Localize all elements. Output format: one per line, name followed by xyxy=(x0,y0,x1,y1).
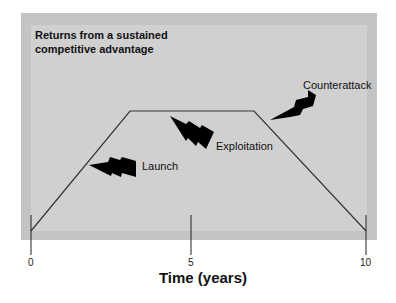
tick-label-5: 5 xyxy=(188,257,194,268)
exploitation-bolt-icon xyxy=(170,116,214,149)
launch-bolt-icon xyxy=(89,157,136,177)
counterattack-bolt-icon xyxy=(270,90,316,120)
tick-label-0: 0 xyxy=(28,257,34,268)
returns-diagram: Returns from a sustained competitive adv… xyxy=(0,0,396,303)
phase-label-counterattack: Counterattack xyxy=(303,79,371,91)
tick-label-10: 10 xyxy=(360,257,371,268)
phase-label-launch: Launch xyxy=(142,160,178,172)
phase-label-exploitation: Exploitation xyxy=(216,140,273,152)
x-axis-title: Time (years) xyxy=(0,269,396,286)
diagram-graphics xyxy=(0,0,396,303)
